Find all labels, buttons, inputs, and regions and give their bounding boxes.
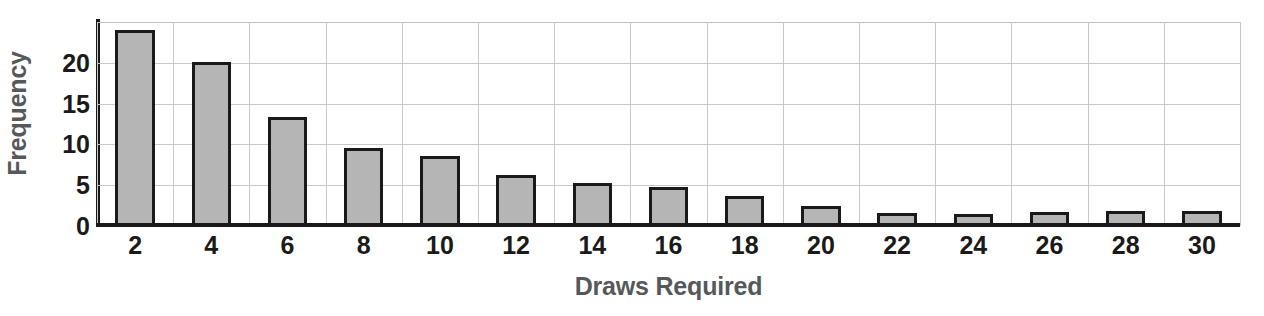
y-tick-label: 20	[36, 50, 90, 75]
y-tick-label: 15	[36, 91, 90, 116]
x-tick-label: 28	[1112, 232, 1140, 260]
x-tick-label: 20	[807, 232, 835, 260]
y-tick-label: 5	[36, 173, 90, 198]
bar	[954, 214, 993, 226]
bar	[115, 30, 154, 226]
bar	[192, 62, 231, 226]
x-tick-label: 14	[578, 232, 606, 260]
x-tick-label: 22	[883, 232, 911, 260]
y-axis-title-text: Frequency	[3, 51, 32, 176]
x-tick-label: 30	[1188, 232, 1216, 260]
gridline-vertical	[1240, 22, 1241, 226]
y-axis-tick-labels: 05101520	[32, 0, 90, 316]
bar	[1030, 212, 1069, 226]
x-axis-title: Draws Required	[97, 272, 1240, 301]
x-tick-label: 16	[655, 232, 683, 260]
x-tick-label: 10	[426, 232, 454, 260]
bar	[725, 196, 764, 226]
x-tick-label: 12	[502, 232, 530, 260]
x-axis-tick-labels: 24681012141618202224262830	[97, 232, 1240, 266]
bar	[344, 148, 383, 226]
x-tick-label: 8	[357, 232, 371, 260]
plot-area	[97, 22, 1240, 226]
histogram-figure: Frequency 05101520 246810121416182022242…	[0, 0, 1264, 316]
bar	[1182, 211, 1221, 226]
bar	[573, 183, 612, 226]
x-tick-label: 6	[281, 232, 295, 260]
x-tick-label: 2	[128, 232, 142, 260]
y-tick-label: 10	[36, 132, 90, 157]
bar	[877, 213, 916, 226]
bar	[420, 156, 459, 226]
y-axis-title: Frequency	[0, 0, 34, 226]
bar	[649, 187, 688, 226]
bar-series	[97, 22, 1240, 226]
bar	[1106, 211, 1145, 226]
bar	[801, 206, 840, 226]
x-tick-label: 26	[1036, 232, 1064, 260]
y-tick-label: 0	[36, 214, 90, 239]
x-tick-label: 24	[959, 232, 987, 260]
bar	[496, 175, 535, 226]
x-tick-label: 18	[731, 232, 759, 260]
x-tick-label: 4	[204, 232, 218, 260]
bar	[268, 117, 307, 226]
